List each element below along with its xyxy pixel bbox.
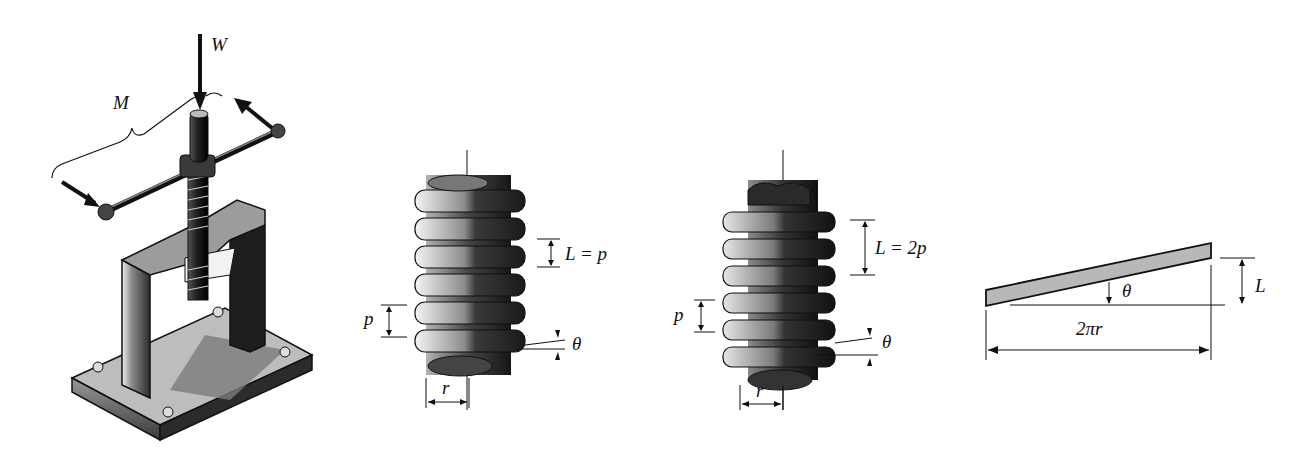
single-thread-screw-panel: L = p p θ r (360, 0, 660, 476)
moment-label-m: M (113, 92, 129, 114)
rise-label: L (1255, 275, 1266, 297)
angle-label: θ (1122, 280, 1131, 302)
lead-label: L = p (565, 243, 607, 265)
load-label-w: W (211, 34, 227, 56)
angle-label: θ (882, 331, 891, 353)
screw-jack-illustration (0, 0, 350, 476)
angle-label: θ (572, 333, 581, 355)
unwrapped-thread-panel: θ L 2πr (970, 0, 1303, 476)
circumference-label: 2πr (1076, 318, 1102, 340)
pitch-label: p (364, 308, 374, 330)
lead-label: L = 2p (875, 237, 927, 259)
pitch-label: p (674, 304, 684, 326)
double-thread-screw-panel: L = 2p p θ r (660, 0, 960, 476)
incline-diagram (970, 0, 1303, 476)
screw-jack-panel: W M (0, 0, 350, 476)
radius-label: r (442, 377, 449, 399)
single-thread-screw-illustration (360, 0, 660, 476)
radius-label: r (756, 380, 763, 402)
